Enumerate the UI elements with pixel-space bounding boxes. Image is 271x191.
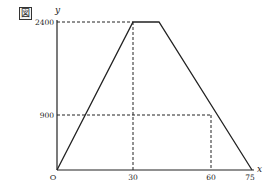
x-tick-30: 30 [128,173,138,182]
data-line [57,22,252,170]
y-tick-2400: 2400 [35,18,54,27]
reference-lines [57,22,211,170]
y-axis-label: y [54,5,61,15]
y-tick-900: 900 [40,111,55,120]
origin-label: O [50,173,57,182]
x-axis-label: x [257,164,262,174]
x-tick-60: 60 [206,173,216,182]
axes [57,20,254,170]
x-tick-75: 75 [245,173,255,182]
trapezoid-chart: y x 2400 900 O 30 60 75 [0,0,271,191]
